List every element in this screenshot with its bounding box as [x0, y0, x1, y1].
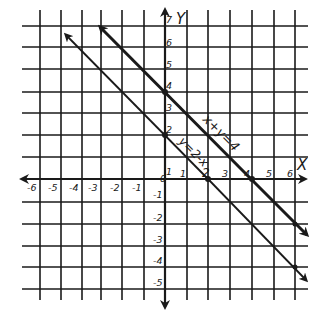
svg-text:5: 5	[166, 59, 172, 70]
svg-text:7: 7	[166, 14, 172, 25]
svg-text:1: 1	[166, 166, 172, 177]
svg-text:-2: -2	[153, 212, 162, 223]
intercept-point	[162, 89, 168, 95]
coordinate-graph: X Y -6 -5 -4 -3 -2 -1 0 1 2 3 4 5 6 1 2 …	[0, 0, 321, 315]
svg-text:-3: -3	[88, 182, 97, 193]
svg-text:-5: -5	[153, 277, 162, 288]
svg-text:-4: -4	[69, 182, 78, 193]
svg-text:-2: -2	[110, 182, 119, 193]
svg-text:-1: -1	[132, 182, 141, 193]
svg-text:5: 5	[266, 168, 272, 179]
svg-text:6: 6	[287, 168, 293, 179]
intercept-point	[205, 176, 211, 182]
svg-text:6: 6	[166, 37, 172, 48]
intercept-point	[249, 176, 255, 182]
svg-text:1: 1	[180, 168, 186, 179]
y-tick-labels: 1 2 3 4 5 6 7 -1 -2 -3 -4 -5	[153, 14, 172, 288]
svg-text:-5: -5	[48, 182, 57, 193]
plotted-point	[293, 265, 298, 270]
svg-text:3: 3	[166, 102, 172, 113]
axes	[22, 10, 305, 307]
x-axis-label: X	[296, 156, 308, 174]
plotted-point	[293, 222, 298, 227]
line-x-plus-y-eq-4: x+y=4	[100, 27, 307, 235]
svg-text:-1: -1	[153, 189, 162, 200]
svg-text:-4: -4	[153, 255, 162, 266]
svg-text:4: 4	[166, 80, 172, 91]
intercept-point	[162, 132, 168, 138]
svg-text:-3: -3	[153, 234, 162, 245]
svg-text:-6: -6	[27, 182, 36, 193]
svg-text:3: 3	[222, 168, 228, 179]
